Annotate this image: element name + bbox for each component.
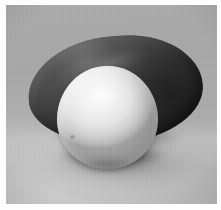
- photo-frame: Still life: white egg and dark gourd: [0, 0, 221, 210]
- white-egg: [57, 66, 158, 169]
- egg-surface-speck: [70, 135, 75, 139]
- egg-specular-highlight: [83, 81, 121, 110]
- image-viewport: Still life: white egg and dark gourd: [0, 0, 221, 210]
- egg-base-shading: [63, 151, 152, 172]
- photograph: Still life: white egg and dark gourd: [6, 5, 217, 204]
